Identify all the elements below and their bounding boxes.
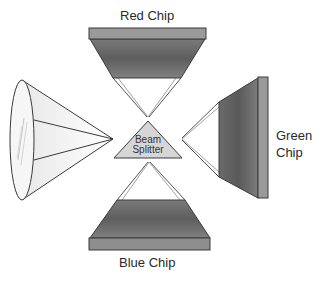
green-chip-label-line1: Green — [276, 128, 312, 143]
beam-splitter-label-line2: Splitter — [128, 145, 168, 155]
blue-chip — [89, 162, 210, 250]
beam-splitter-label: Beam Splitter — [128, 135, 168, 155]
lens-icon — [10, 80, 34, 200]
green-chip — [182, 77, 268, 198]
blue-chip-label: Blue Chip — [119, 255, 175, 270]
green-chip-label-line2: Chip — [276, 145, 312, 160]
red-chip — [89, 28, 206, 117]
lens-cone — [10, 80, 113, 200]
green-chip-label: Green Chip — [276, 128, 312, 160]
red-chip-label: Red Chip — [120, 8, 174, 23]
